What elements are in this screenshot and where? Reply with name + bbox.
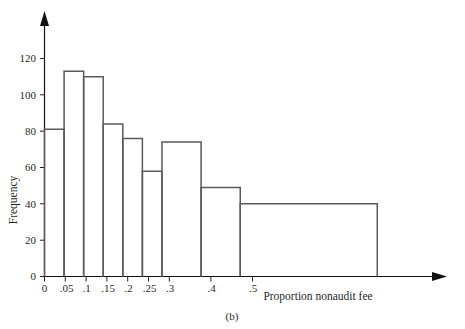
x-tick-label: .1 bbox=[82, 282, 90, 294]
x-tick-label: .3 bbox=[166, 282, 175, 294]
histogram-figure: 0 20 40 60 80 100 120 0 .05 .1 .15 .2 bbox=[0, 0, 465, 329]
x-tick-label: .25 bbox=[143, 282, 157, 294]
histogram-svg: 0 20 40 60 80 100 120 0 .05 .1 .15 .2 bbox=[0, 0, 465, 329]
y-axis-title: Frequency bbox=[7, 175, 20, 224]
x-tick-label: .4 bbox=[207, 282, 216, 294]
x-tick-label: .05 bbox=[60, 282, 74, 294]
y-tick-label: 20 bbox=[25, 234, 37, 246]
y-tick-label: 100 bbox=[20, 89, 37, 101]
y-tick-label: 60 bbox=[25, 161, 37, 173]
x-axis-title: Proportion nonaudit fee bbox=[263, 290, 372, 303]
y-tick-label: 40 bbox=[25, 198, 37, 210]
x-tick-label: .2 bbox=[124, 282, 132, 294]
x-tick-label: .15 bbox=[101, 282, 115, 294]
figure-caption: (b) bbox=[226, 310, 239, 323]
figure-background bbox=[0, 0, 465, 329]
x-tick-label: 0 bbox=[42, 282, 48, 294]
y-tick-label: 120 bbox=[20, 52, 37, 64]
y-tick-label: 0 bbox=[31, 270, 37, 282]
x-tick-label: .5 bbox=[249, 282, 258, 294]
y-tick-label: 80 bbox=[25, 125, 37, 137]
